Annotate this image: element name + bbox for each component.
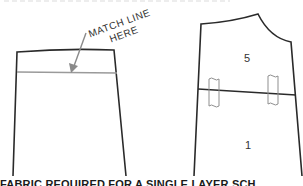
tape-left-icon [209, 78, 219, 107]
match-line-annotation: MATCH LINE HERE [87, 7, 156, 51]
seam-line [198, 89, 296, 95]
tape-right-icon [268, 75, 278, 105]
right-pattern-piece: 5 1 [194, 14, 302, 176]
left-pattern-piece [13, 49, 126, 176]
pattern-diagram: MATCH LINE HERE 5 1 [0, 0, 303, 186]
match-line [17, 72, 117, 73]
arrow-icon [69, 33, 86, 73]
left-piece-outline [13, 49, 126, 176]
piece-label-upper: 5 [244, 52, 250, 64]
piece-label-lower: 1 [245, 139, 251, 151]
figure-caption: FABRIC REQUIRED FOR A SINGLE LAYER SCH [0, 178, 303, 186]
